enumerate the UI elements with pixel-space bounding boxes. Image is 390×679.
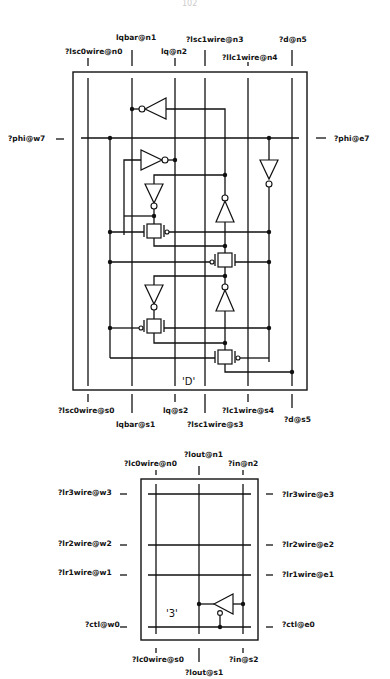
pin-label-bottom-s1: ?lout@s1 (185, 668, 223, 677)
cell-3: ?lc0wire@n0 ?lout@n1 ?in@n2 ?lr3wire@w3 … (58, 450, 334, 677)
inverter-icon (145, 98, 166, 119)
cell-name-label: 'D' (182, 376, 195, 387)
pin-label-east-e3: ?lr3wire@e3 (282, 490, 334, 499)
pin-label-east-phi: ?phi@e7 (334, 134, 369, 143)
transmission-gate-icon (218, 253, 232, 267)
inverter-bubble (151, 304, 157, 310)
pin-label-bottom-s0: ?lsc0wire@s0 (58, 406, 115, 415)
transmission-gate-icon (147, 224, 161, 238)
gate-bubble (165, 230, 169, 234)
tristate-buffer-icon (214, 594, 233, 614)
pin-label-top-n2: lq@n2 (161, 47, 187, 56)
gate-bubble (210, 260, 214, 264)
pin-label-top-n3: ?lsc1wire@n3 (186, 35, 243, 44)
pin-label-top-n1: ?lout@n1 (184, 450, 223, 459)
pin-label-top-n5: ?d@n5 (279, 35, 307, 44)
inverter-bubble (162, 157, 168, 163)
pin-label-east-e1: ?lr1wire@e1 (282, 570, 334, 579)
pin-label-bottom-s2: lq@s2 (163, 406, 188, 415)
pin-label-bottom-s4: ?lc1wire@s4 (222, 406, 274, 415)
pin-label-top-n2: ?in@n2 (228, 459, 258, 468)
pin-label-east-e0: ?ctl@e0 (282, 620, 315, 629)
gate-bubble (139, 326, 143, 330)
transmission-gate-icon (218, 350, 232, 364)
pin-label-top-n4: ?llc1wire@n4 (222, 53, 278, 62)
pin-label-bottom-s0: ?lc0wire@s0 (132, 655, 184, 664)
pin-label-east-e2: ?lr2wire@e2 (282, 540, 334, 549)
inverter-bubble (151, 203, 157, 209)
pin-label-west-phi: ?phi@w7 (8, 134, 45, 143)
pin-label-bottom-s5: ?d@s5 (284, 415, 311, 424)
pin-label-bottom-s3: ?lsc1wire@s3 (187, 420, 244, 429)
pin-label-top-n0: ?lc0wire@n0 (124, 459, 177, 468)
inverter-icon (145, 184, 163, 203)
inverter-bubble (266, 181, 272, 187)
pin-label-west-w3: ?lr3wire@w3 (58, 488, 112, 497)
pin-label-west-w0: ?ctl@w0 (85, 620, 120, 629)
pin-label-top-n1: lqbar@n1 (116, 33, 156, 42)
cell-d: ?lsc0wire@n0 lqbar@n1 lq@n2 ?lsc1wire@n3… (8, 33, 369, 429)
schematic-canvas: 102 ?lsc0wire@n0 lqbar@n1 lq@n2 ?lsc1wir… (0, 0, 390, 679)
gate-bubble (236, 356, 240, 360)
cell-name-label: '3' (166, 608, 178, 619)
pin-label-west-w1: ?lr1wire@w1 (58, 568, 112, 577)
transmission-gate-icon (147, 319, 161, 333)
inverter-icon (216, 290, 234, 311)
pin-label-west-w2: ?lr2wire@w2 (58, 539, 112, 548)
pin-label-bottom-s1: lqbar@s1 (116, 420, 155, 429)
inverter-icon (216, 201, 234, 222)
inverter-icon (260, 160, 278, 179)
inverter-icon (141, 150, 162, 170)
page-number: 102 (182, 0, 197, 8)
pin-label-bottom-s2: ?in@s2 (229, 655, 258, 664)
pin-label-top-n0: ?lsc0wire@n0 (65, 47, 122, 56)
inverter-icon (145, 285, 163, 304)
enable-bubble (218, 611, 223, 616)
